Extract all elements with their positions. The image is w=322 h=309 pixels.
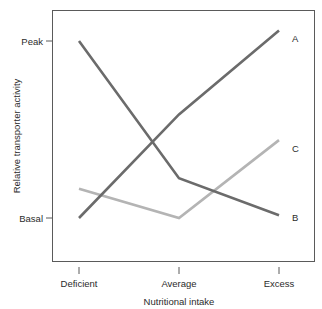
y-axis-title: Relative transporter activity [11, 78, 22, 193]
y-tick-label-basal: Basal [19, 213, 43, 224]
x-axis-title: Nutritional intake [144, 296, 215, 307]
series-label-b: B [292, 212, 298, 223]
x-tick-label-average: Average [161, 278, 196, 289]
y-tick-label-peak: Peak [21, 36, 43, 47]
x-tick-label-excess: Excess [264, 278, 295, 289]
chart-figure: Peak Basal Relative transporter activity… [0, 0, 322, 309]
line-chart: Peak Basal Relative transporter activity… [0, 0, 322, 309]
series-line-b [79, 41, 279, 215]
series-label-c: C [292, 143, 299, 154]
plot-frame [53, 11, 315, 262]
series-label-a: A [292, 33, 299, 44]
series-line-a [79, 30, 279, 218]
x-tick-label-deficient: Deficient [61, 278, 98, 289]
